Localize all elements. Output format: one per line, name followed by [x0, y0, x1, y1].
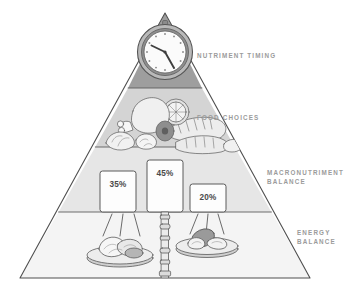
- percentage-card-2-box: [147, 160, 183, 212]
- percentage-card-3: 20%: [190, 184, 226, 212]
- vegetable-cluster-shape: [136, 134, 157, 149]
- scale-pan-left-food-c: [125, 248, 143, 258]
- greens-right-shape: [223, 139, 241, 152]
- clock-center-pin: [163, 50, 166, 53]
- front-bread-shape: [176, 136, 228, 154]
- nutrition-pyramid-figure: 35% 45% 20%: [0, 0, 350, 296]
- tier-label-nutriment-timing: NUTRIMENT TIMING: [197, 51, 276, 60]
- ham-bone-knob-top: [117, 121, 123, 127]
- percentage-card-1-value: 35%: [110, 180, 128, 189]
- percentage-card-1-box: [100, 171, 136, 212]
- scale-pan-right-food-b: [188, 238, 205, 249]
- percentage-card-3-value: 20%: [200, 193, 218, 202]
- clock-icon: [138, 21, 193, 80]
- tier-label-macronutriment-balance: MACRONUTRIMENT BALANCE: [267, 168, 344, 186]
- tier-label-food-choices: FOOD CHOICES: [197, 113, 259, 122]
- percentage-card-2-value: 45%: [157, 169, 175, 178]
- diagram-canvas: 35% 45% 20%: [0, 0, 350, 296]
- percentage-card-1: 35%: [100, 171, 136, 212]
- eggplant-core: [162, 127, 168, 134]
- tier-label-energy-balance: ENERGY BALANCE: [297, 228, 336, 246]
- scale-pan-right-food-c: [207, 238, 227, 249]
- percentage-card-2: 45%: [147, 160, 183, 212]
